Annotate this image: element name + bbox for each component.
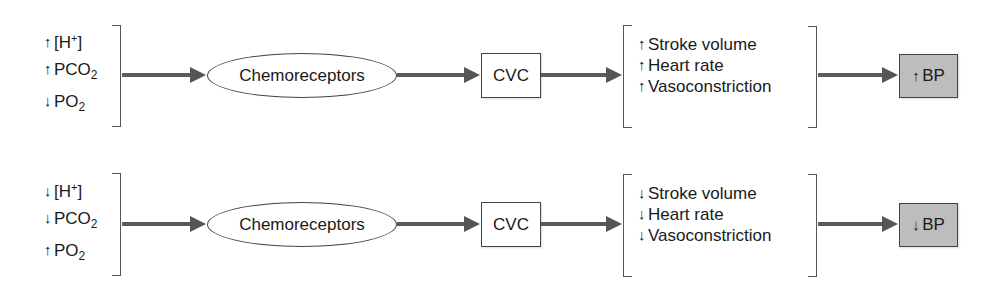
- effects-list: ↓Stroke volume ↓Heart rate ↓Vasoconstric…: [638, 177, 771, 252]
- arrow-up-icon: ↑: [44, 234, 53, 266]
- cvc-label: CVC: [493, 66, 529, 86]
- arrow-up-icon: ↑: [638, 69, 647, 102]
- bp-label: BP: [922, 215, 945, 235]
- effect-vasoconstriction: ↑Vasoconstriction: [638, 70, 771, 103]
- stimulus-sub: 2: [79, 249, 86, 263]
- stimulus-sub: 2: [79, 100, 86, 114]
- cvc-node: CVC: [481, 202, 541, 247]
- arrow-head-icon: [464, 67, 480, 83]
- stimuli-bracket: [112, 25, 121, 127]
- stimuli-list: ↓[H+] ↓PCO2 ↑PO2: [44, 171, 119, 267]
- stimulus-po2: ↑PO2: [44, 235, 119, 267]
- bp-outcome-node: ↓BP: [899, 203, 958, 247]
- effects-bracket-close: [808, 26, 817, 128]
- stimulus-pco2: ↓PCO2: [44, 203, 119, 235]
- effect-label: Vasoconstriction: [648, 77, 771, 96]
- stimuli-bracket: [112, 173, 121, 276]
- stimulus-po2: ↓PO2: [44, 86, 119, 118]
- cvc-node: CVC: [481, 53, 541, 98]
- arrow-down-icon: ↓: [44, 85, 53, 117]
- arrow-shaft: [541, 73, 607, 77]
- stimulus-label-post: ]: [77, 182, 82, 201]
- arrow-head-icon: [464, 216, 480, 232]
- stimulus-sub: 2: [91, 68, 98, 82]
- stimulus-label-post: ]: [77, 33, 82, 52]
- arrow-shaft: [541, 222, 607, 226]
- cvc-label: CVC: [493, 215, 529, 235]
- stimulus-label: PCO: [54, 209, 91, 228]
- arrow-down-icon: ↓: [44, 202, 53, 234]
- stimulus-label: PO: [54, 92, 79, 111]
- stimulus-pco2: ↑PCO2: [44, 54, 119, 86]
- arrow-shaft: [818, 222, 884, 226]
- arrow-down-icon: ↓: [912, 216, 921, 233]
- stimuli-list: ↑[H+] ↑PCO2 ↓PO2: [44, 22, 119, 118]
- arrow-shaft: [818, 73, 884, 77]
- arrow-shaft: [122, 222, 192, 226]
- stimulus-h-ion: ↓[H+]: [44, 171, 119, 203]
- stimulus-label: PCO: [54, 60, 91, 79]
- stimulus-label: PO: [54, 241, 79, 260]
- chemoreceptors-node: Chemoreceptors: [207, 202, 397, 247]
- stimulus-label: [H: [54, 182, 71, 201]
- chemoreceptors-node: Chemoreceptors: [207, 53, 397, 98]
- arrow-head-icon: [882, 67, 898, 83]
- bp-outcome-node: ↑BP: [899, 54, 958, 98]
- arrow-shaft: [397, 222, 465, 226]
- stimulus-sub: 2: [91, 217, 98, 231]
- arrow-head-icon: [882, 216, 898, 232]
- arrow-head-icon: [190, 67, 206, 83]
- arrow-head-icon: [190, 216, 206, 232]
- effects-bracket-open: [623, 174, 632, 277]
- effects-bracket-close: [808, 174, 817, 277]
- stimulus-h-ion: ↑[H+]: [44, 22, 119, 54]
- arrow-up-icon: ↑: [44, 53, 53, 85]
- arrow-shaft: [397, 73, 465, 77]
- effect-vasoconstriction: ↓Vasoconstriction: [638, 219, 771, 252]
- decrease-pathway-row: ↓[H+] ↓PCO2 ↑PO2 Chemoreceptors CVC ↓Str…: [0, 149, 993, 293]
- arrow-down-icon: ↓: [638, 218, 647, 251]
- stimulus-label: [H: [54, 33, 71, 52]
- arrow-shaft: [122, 73, 192, 77]
- effects-list: ↑Stroke volume ↑Heart rate ↑Vasoconstric…: [638, 28, 771, 103]
- arrow-up-icon: ↑: [912, 67, 921, 84]
- arrow-head-icon: [606, 216, 622, 232]
- chemoreceptors-label: Chemoreceptors: [239, 215, 365, 235]
- arrow-head-icon: [606, 67, 622, 83]
- increase-pathway-row: ↑[H+] ↑PCO2 ↓PO2 Chemoreceptors CVC ↑Str…: [0, 0, 993, 145]
- chemoreceptors-label: Chemoreceptors: [239, 66, 365, 86]
- bp-label: BP: [922, 66, 945, 86]
- effects-bracket-open: [623, 25, 632, 128]
- effect-label: Vasoconstriction: [648, 226, 771, 245]
